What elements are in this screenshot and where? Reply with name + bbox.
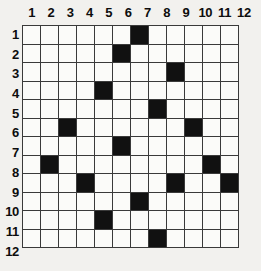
grid-cell-r5-c5[interactable] — [95, 100, 113, 119]
grid-cell-r11-c6[interactable] — [113, 211, 131, 230]
grid-cell-r4-c10[interactable] — [185, 81, 203, 100]
grid-cell-r10-c1[interactable] — [23, 192, 41, 211]
grid-cell-r6-c12[interactable] — [221, 118, 239, 137]
grid-cell-r11-c12[interactable] — [221, 211, 239, 230]
grid-cell-r1-c10[interactable] — [185, 26, 203, 45]
grid-cell-r2-c3[interactable] — [59, 44, 77, 63]
grid-cell-r4-c4[interactable] — [77, 81, 95, 100]
grid-cell-r1-c5[interactable] — [95, 26, 113, 45]
grid-cell-r11-c10[interactable] — [185, 211, 203, 230]
grid-cell-r7-c8[interactable] — [149, 137, 167, 156]
grid-cell-r8-c4[interactable] — [77, 155, 95, 174]
grid-cell-r2-c5[interactable] — [95, 44, 113, 63]
grid-cell-r5-c4[interactable] — [77, 100, 95, 119]
grid-cell-r6-c11[interactable] — [203, 118, 221, 137]
grid-cell-r6-c1[interactable] — [23, 118, 41, 137]
grid-cell-r3-c4[interactable] — [77, 63, 95, 82]
grid-cell-r6-c3[interactable] — [59, 118, 77, 137]
grid-cell-r6-c8[interactable] — [149, 118, 167, 137]
grid-cell-r12-c8[interactable] — [149, 229, 167, 248]
grid-cell-r5-c11[interactable] — [203, 100, 221, 119]
grid-cell-r1-c1[interactable] — [23, 26, 41, 45]
grid-cell-r3-c5[interactable] — [95, 63, 113, 82]
grid-cell-r11-c8[interactable] — [149, 211, 167, 230]
grid-cell-r8-c12[interactable] — [221, 155, 239, 174]
grid-cell-r6-c6[interactable] — [113, 118, 131, 137]
grid-cell-r12-c9[interactable] — [167, 229, 185, 248]
grid-cell-r6-c7[interactable] — [131, 118, 149, 137]
grid-cell-r8-c3[interactable] — [59, 155, 77, 174]
grid-cell-r12-c1[interactable] — [23, 229, 41, 248]
grid-cell-r9-c8[interactable] — [149, 174, 167, 193]
grid-cell-r3-c8[interactable] — [149, 63, 167, 82]
grid-cell-r9-c1[interactable] — [23, 174, 41, 193]
grid-cell-r8-c11[interactable] — [203, 155, 221, 174]
grid-cell-r9-c2[interactable] — [41, 174, 59, 193]
grid-cell-r10-c7[interactable] — [131, 192, 149, 211]
grid-cell-r3-c10[interactable] — [185, 63, 203, 82]
grid-cell-r11-c7[interactable] — [131, 211, 149, 230]
grid-cell-r12-c4[interactable] — [77, 229, 95, 248]
grid-cell-r1-c8[interactable] — [149, 26, 167, 45]
grid-cell-r1-c12[interactable] — [221, 26, 239, 45]
grid-cell-r3-c7[interactable] — [131, 63, 149, 82]
grid-cell-r2-c1[interactable] — [23, 44, 41, 63]
grid-cell-r4-c5[interactable] — [95, 81, 113, 100]
grid-cell-r4-c2[interactable] — [41, 81, 59, 100]
grid-cell-r3-c12[interactable] — [221, 63, 239, 82]
grid-cell-r12-c12[interactable] — [221, 229, 239, 248]
grid-cell-r7-c3[interactable] — [59, 137, 77, 156]
grid-cell-r2-c10[interactable] — [185, 44, 203, 63]
grid-cell-r7-c4[interactable] — [77, 137, 95, 156]
grid-cell-r4-c1[interactable] — [23, 81, 41, 100]
grid-cell-r5-c1[interactable] — [23, 100, 41, 119]
grid-cell-r10-c9[interactable] — [167, 192, 185, 211]
grid-cell-r9-c9[interactable] — [167, 174, 185, 193]
grid-cell-r7-c6[interactable] — [113, 137, 131, 156]
grid-cell-r10-c2[interactable] — [41, 192, 59, 211]
grid-cell-r9-c7[interactable] — [131, 174, 149, 193]
grid-cell-r7-c7[interactable] — [131, 137, 149, 156]
grid-cell-r9-c5[interactable] — [95, 174, 113, 193]
grid-cell-r8-c10[interactable] — [185, 155, 203, 174]
grid-cell-r5-c9[interactable] — [167, 100, 185, 119]
grid-cell-r10-c4[interactable] — [77, 192, 95, 211]
grid-cell-r4-c7[interactable] — [131, 81, 149, 100]
grid-cell-r2-c9[interactable] — [167, 44, 185, 63]
grid-cell-r9-c12[interactable] — [221, 174, 239, 193]
grid-cell-r2-c6[interactable] — [113, 44, 131, 63]
grid-cell-r10-c8[interactable] — [149, 192, 167, 211]
grid-cell-r4-c6[interactable] — [113, 81, 131, 100]
grid-cell-r11-c9[interactable] — [167, 211, 185, 230]
grid-cell-r2-c11[interactable] — [203, 44, 221, 63]
grid-cell-r11-c1[interactable] — [23, 211, 41, 230]
grid-cell-r3-c11[interactable] — [203, 63, 221, 82]
grid-cell-r2-c7[interactable] — [131, 44, 149, 63]
grid-cell-r3-c6[interactable] — [113, 63, 131, 82]
grid-cell-r8-c6[interactable] — [113, 155, 131, 174]
grid-cell-r6-c2[interactable] — [41, 118, 59, 137]
grid-cell-r3-c2[interactable] — [41, 63, 59, 82]
grid-cell-r5-c7[interactable] — [131, 100, 149, 119]
grid-cell-r4-c8[interactable] — [149, 81, 167, 100]
grid-cell-r12-c6[interactable] — [113, 229, 131, 248]
grid-cell-r4-c9[interactable] — [167, 81, 185, 100]
grid-cell-r9-c6[interactable] — [113, 174, 131, 193]
grid-cell-r10-c10[interactable] — [185, 192, 203, 211]
grid-cell-r7-c12[interactable] — [221, 137, 239, 156]
grid-cell-r8-c2[interactable] — [41, 155, 59, 174]
grid-cell-r8-c1[interactable] — [23, 155, 41, 174]
grid-cell-r12-c10[interactable] — [185, 229, 203, 248]
grid-cell-r2-c2[interactable] — [41, 44, 59, 63]
grid-cell-r5-c10[interactable] — [185, 100, 203, 119]
grid-cell-r1-c2[interactable] — [41, 26, 59, 45]
grid-cell-r12-c7[interactable] — [131, 229, 149, 248]
grid-cell-r5-c6[interactable] — [113, 100, 131, 119]
grid-cell-r3-c3[interactable] — [59, 63, 77, 82]
grid-cell-r5-c12[interactable] — [221, 100, 239, 119]
grid-cell-r8-c5[interactable] — [95, 155, 113, 174]
grid-cell-r4-c11[interactable] — [203, 81, 221, 100]
grid-cell-r3-c9[interactable] — [167, 63, 185, 82]
grid-cell-r9-c3[interactable] — [59, 174, 77, 193]
grid-cell-r7-c2[interactable] — [41, 137, 59, 156]
